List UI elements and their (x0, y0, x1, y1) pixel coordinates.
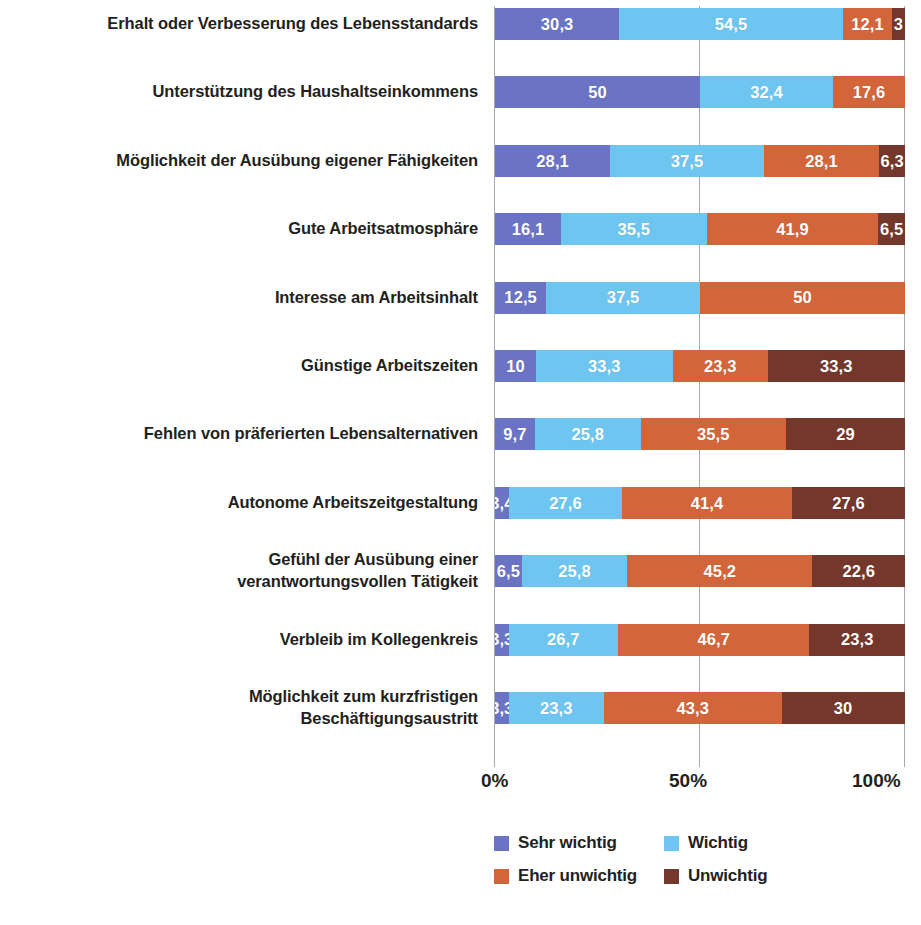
legend-swatch-icon (494, 869, 509, 884)
bar-segment-value: 50 (588, 84, 607, 101)
legend-item-wichtig[interactable]: Wichtig (664, 833, 824, 853)
legend-swatch-icon (664, 836, 679, 851)
bar-segment: 46,7 (618, 624, 809, 656)
bar-row: 30,354,512,13 (495, 8, 905, 40)
category-label: Gefühl der Ausübung einerverantwortungsv… (0, 549, 478, 593)
x-tick-0 (494, 758, 495, 767)
bar-segment: 33,3 (768, 350, 905, 382)
category-label-line: Interesse am Arbeitsinhalt (0, 287, 478, 309)
category-label: Möglichkeit zum kurzfristigenBeschäftigu… (0, 686, 478, 730)
bar-segment-value: 27,6 (832, 495, 865, 512)
category-label: Gute Arbeitsatmosphäre (0, 218, 478, 240)
legend-label: Sehr wichtig (518, 833, 617, 853)
bar-segment: 26,7 (509, 624, 618, 656)
bar-segment: 9,7 (495, 418, 535, 450)
bar-segment-value: 30,3 (541, 16, 574, 33)
bar-segment: 43,3 (604, 692, 782, 724)
bar-segment: 35,5 (561, 213, 707, 245)
legend-item-unwichtig[interactable]: Unwichtig (664, 866, 824, 886)
bar-segment: 3,3 (495, 692, 509, 724)
bar-segment-value: 37,5 (671, 153, 704, 170)
bar-segment: 16,1 (495, 213, 561, 245)
category-label: Autonome Arbeitszeitgestaltung (0, 492, 478, 514)
x-tick-100 (904, 758, 905, 767)
legend-row-1: Sehr wichtig Wichtig (494, 833, 824, 853)
bar-segment-value: 35,5 (618, 221, 651, 238)
bar-segment-value: 37,5 (607, 289, 640, 306)
bar-segment-value: 3,3 (495, 631, 509, 648)
category-label-line: verantwortungsvollen Tätigkeit (0, 571, 478, 593)
category-label-line: Autonome Arbeitszeitgestaltung (0, 492, 478, 514)
bar-segment-value: 33,3 (588, 358, 621, 375)
bar-segment-value: 16,1 (512, 221, 545, 238)
bar-segment-value: 6,5 (880, 221, 903, 238)
bar-segment: 12,5 (495, 282, 546, 314)
bar-segment-value: 3,4 (495, 495, 509, 512)
bar-segment: 50 (495, 76, 700, 108)
bar-segment-value: 41,4 (691, 495, 724, 512)
bar-segment: 25,8 (535, 418, 641, 450)
legend-item-eher-unwichtig[interactable]: Eher unwichtig (494, 866, 664, 886)
bar-segment-value: 41,9 (776, 221, 809, 238)
bar-segment-value: 3 (894, 16, 903, 33)
bar-row: 3,326,746,723,3 (495, 624, 905, 656)
category-label-line: Verbleib im Kollegenkreis (0, 629, 478, 651)
bar-segment: 12,1 (843, 8, 893, 40)
category-label-line: Gefühl der Ausübung einer (0, 549, 478, 571)
bar-row: 9,725,835,529 (495, 418, 905, 450)
legend-swatch-icon (664, 869, 679, 884)
bar-segment: 23,3 (809, 624, 905, 656)
bar-segment-value: 50 (793, 289, 812, 306)
legend-label: Wichtig (688, 833, 748, 853)
category-label: Günstige Arbeitszeiten (0, 355, 478, 377)
category-label-line: Beschäftigungsaustritt (0, 708, 478, 730)
bar-segment: 33,3 (536, 350, 673, 382)
category-label-line: Erhalt oder Verbesserung des Lebensstand… (0, 13, 478, 35)
bar-segment: 6,3 (879, 145, 905, 177)
bar-segment: 6,5 (878, 213, 905, 245)
x-axis-ticks (495, 758, 905, 767)
bar-segment: 23,3 (509, 692, 605, 724)
bar-segment: 41,4 (622, 487, 792, 519)
bar-segment: 28,1 (764, 145, 879, 177)
bar-segment-value: 9,7 (503, 426, 526, 443)
bar-row: 3,323,343,330 (495, 692, 905, 724)
bar-segment-value: 6,5 (497, 563, 520, 580)
bar-segment-value: 46,7 (697, 631, 730, 648)
bar-segment-value: 6,3 (880, 153, 903, 170)
legend-row-2: Eher unwichtig Unwichtig (494, 866, 824, 886)
legend-item-sehr-wichtig[interactable]: Sehr wichtig (494, 833, 664, 853)
bar-segment-value: 28,1 (805, 153, 838, 170)
plot-area: 30,354,512,135032,417,628,137,528,16,316… (495, 6, 905, 758)
bar-row: 1033,323,333,3 (495, 350, 905, 382)
category-label-line: Möglichkeit der Ausübung eigener Fähigke… (0, 150, 478, 172)
x-axis-labels: 0% 50% 100% (440, 770, 921, 798)
legend-label: Eher unwichtig (518, 866, 637, 886)
bar-segment-value: 45,2 (704, 563, 737, 580)
stacked-bar-chart: Erhalt oder Verbesserung des Lebensstand… (0, 0, 921, 925)
bar-segment: 23,3 (673, 350, 769, 382)
bar-segment-value: 23,3 (540, 700, 573, 717)
bar-segment-value: 22,6 (842, 563, 875, 580)
bar-segment-value: 35,5 (697, 426, 730, 443)
bar-segment-value: 10 (506, 358, 525, 375)
category-label: Fehlen von präferierten Lebensalternativ… (0, 423, 478, 445)
bar-segment-value: 23,3 (704, 358, 737, 375)
category-label-line: Unterstützung des Haushaltseinkommens (0, 81, 478, 103)
bar-segment: 30 (782, 692, 905, 724)
category-label-line: Fehlen von präferierten Lebensalternativ… (0, 423, 478, 445)
bar-segment: 3 (892, 8, 904, 40)
bar-segment: 35,5 (641, 418, 787, 450)
bar-segment: 3,4 (495, 487, 509, 519)
bar-segment-value: 27,6 (549, 495, 582, 512)
category-label: Erhalt oder Verbesserung des Lebensstand… (0, 13, 478, 35)
x-tick-50 (699, 758, 700, 767)
bar-row: 12,537,550 (495, 282, 905, 314)
bar-rows: 30,354,512,135032,417,628,137,528,16,316… (495, 6, 905, 758)
bar-segment: 28,1 (495, 145, 610, 177)
bar-segment: 45,2 (627, 555, 812, 587)
x-axis-label-50: 50% (669, 770, 707, 792)
bar-segment: 32,4 (700, 76, 833, 108)
bar-segment: 54,5 (619, 8, 842, 40)
bar-segment: 41,9 (707, 213, 879, 245)
